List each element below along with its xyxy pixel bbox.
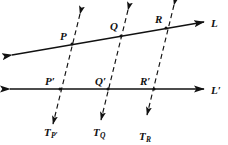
point-label-Q-prime: Q′ [95, 76, 106, 87]
transversal-label-TR-base: T [139, 130, 146, 142]
point-Q-prime-dot [107, 88, 110, 91]
transversal-label-TQ-base: T [93, 126, 100, 138]
point-label-Q: Q [110, 21, 118, 32]
point-label-R-prime: R′ [140, 76, 150, 87]
transversal-label-TQ: TQ [93, 127, 105, 138]
line-label-L-prime: L′ [211, 85, 221, 96]
transversal-label-TP-sub: P′ [51, 131, 58, 140]
point-label-P-prime: P′ [45, 76, 55, 87]
point-R-dot [165, 27, 168, 30]
geometry-figure: P Q R P′ Q′ R′ L L′ TP′ TQ TR [0, 0, 228, 145]
point-Q-dot [120, 35, 123, 38]
line-L-stroke [12, 22, 204, 55]
intersection-points [59, 27, 168, 91]
point-label-R: R [155, 14, 162, 25]
transversal-label-TR: TR [139, 131, 151, 142]
transversal-label-TP-base: T [44, 126, 51, 138]
point-P-prime-dot [59, 88, 62, 91]
transversal-label-TR-sub: R [146, 135, 151, 144]
transversal-label-TQ-sub: Q [100, 131, 105, 140]
transversal-label-TP: TP′ [44, 127, 57, 138]
line-label-L: L [211, 18, 218, 29]
point-R-prime-dot [153, 88, 156, 91]
point-P-dot [71, 43, 74, 46]
point-label-P: P [60, 31, 67, 42]
line-group [10, 22, 204, 89]
